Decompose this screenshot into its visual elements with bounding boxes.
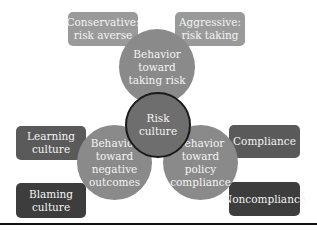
box-conservative-label: Conservative: risk averse: [66, 16, 139, 42]
box-compliance-label: Compliance: [233, 135, 296, 148]
box-blaming-label: Blaming culture: [29, 188, 73, 214]
bottom-rule: [0, 223, 317, 225]
box-noncompliance: Noncompliance: [229, 182, 300, 216]
circle-taking-risk-label: Behavior toward taking risk: [128, 48, 185, 87]
box-blaming: Blaming culture: [16, 183, 86, 218]
box-noncompliance-label: Noncompliance: [223, 193, 306, 206]
box-learning-label: Learning culture: [27, 130, 75, 156]
circle-risk-culture-label: Risk culture: [139, 112, 177, 138]
box-learning: Learning culture: [16, 126, 86, 160]
circle-risk-culture: Risk culture: [125, 92, 191, 158]
box-compliance: Compliance: [229, 125, 300, 158]
box-aggressive-label: Aggressive: risk taking: [179, 16, 241, 42]
